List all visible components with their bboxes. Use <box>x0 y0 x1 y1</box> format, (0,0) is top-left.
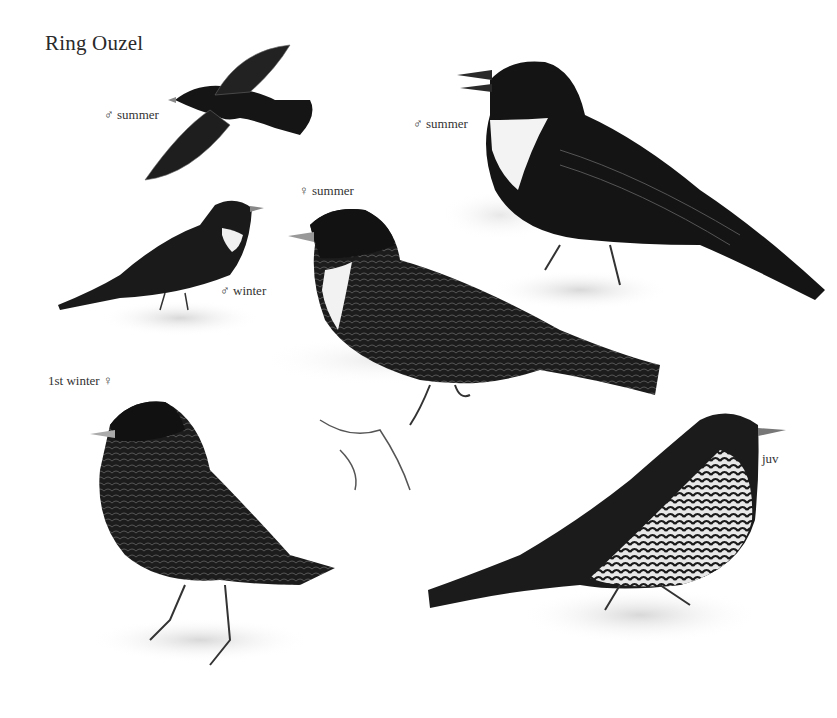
label-juvenile: juv <box>762 451 779 467</box>
label-female-summer: ♀ summer <box>299 183 354 199</box>
label-first-winter-female: 1st winter ♀ <box>48 373 113 389</box>
bird-male-summer-large <box>457 61 825 300</box>
label-male-summer-large: ♂ summer <box>413 116 468 132</box>
label-male-summer-flight: ♂ summer <box>104 107 159 123</box>
illustration-plate: Ring Ouzel <box>0 0 837 718</box>
bird-male-summer-flight <box>145 45 312 180</box>
label-male-winter: ♂ winter <box>220 283 266 299</box>
bird-juvenile <box>428 414 786 610</box>
